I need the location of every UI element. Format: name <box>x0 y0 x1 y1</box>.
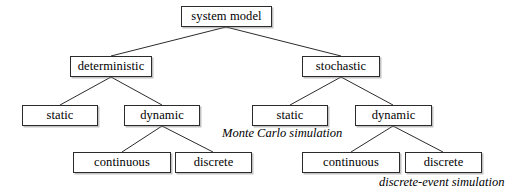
node-deterministic-static[interactable]: static <box>22 105 98 126</box>
node-label-stochastic: stochastic <box>316 60 366 73</box>
node-system-model[interactable]: system model <box>181 6 272 27</box>
edge-root-deterministic <box>111 27 226 56</box>
node-label-deterministic-static: static <box>47 109 74 122</box>
edge-sto-dynamic <box>341 77 393 105</box>
edge-detdyn-continuous <box>122 126 162 152</box>
node-stochastic-dynamic[interactable]: dynamic <box>355 105 432 126</box>
annotation-monte-carlo-simulation: Monte Carlo simulation <box>222 127 342 140</box>
node-deterministic-dynamic-continuous[interactable]: continuous <box>73 152 171 173</box>
node-stochastic[interactable]: stochastic <box>302 56 380 77</box>
edge-stodyn-continuous <box>351 126 393 152</box>
node-label-deterministic: deterministic <box>78 60 145 73</box>
node-label-deterministic-dynamic-continuous: continuous <box>94 156 150 169</box>
annotation-discrete-event-simulation: discrete-event simulation <box>379 176 505 189</box>
node-deterministic[interactable]: deterministic <box>70 56 152 77</box>
edge-detdyn-discrete <box>162 126 213 152</box>
system-model-taxonomy-diagram: system model deterministic stochastic st… <box>0 0 526 194</box>
edge-sto-static <box>290 77 341 105</box>
edge-root-stochastic <box>226 27 341 56</box>
node-deterministic-dynamic-discrete[interactable]: discrete <box>175 152 252 173</box>
node-label-system-model: system model <box>191 10 261 23</box>
node-deterministic-dynamic[interactable]: dynamic <box>124 105 200 126</box>
node-stochastic-static[interactable]: static <box>252 105 328 126</box>
node-label-stochastic-dynamic: dynamic <box>372 109 416 122</box>
node-label-stochastic-dynamic-continuous: continuous <box>323 156 379 169</box>
node-stochastic-dynamic-continuous[interactable]: continuous <box>302 152 400 173</box>
node-label-stochastic-dynamic-discrete: discrete <box>424 156 464 169</box>
node-stochastic-dynamic-discrete[interactable]: discrete <box>405 152 482 173</box>
edge-stodyn-discrete <box>393 126 443 152</box>
edge-det-dynamic <box>111 77 162 105</box>
node-label-deterministic-dynamic: dynamic <box>140 109 184 122</box>
node-label-stochastic-static: static <box>277 109 304 122</box>
node-label-deterministic-dynamic-discrete: discrete <box>194 156 234 169</box>
edge-det-static <box>60 77 111 105</box>
